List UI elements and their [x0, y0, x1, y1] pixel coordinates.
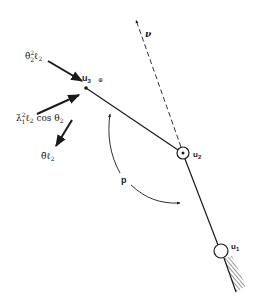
link-u2-u1 — [185, 159, 218, 245]
direction-nu-label: ν — [145, 29, 152, 39]
angle-p-label: p — [121, 175, 127, 185]
label-theta-ddot-l2: θ̈ℓ2 — [41, 151, 55, 162]
force-arrow-theta-ddot — [56, 120, 72, 146]
node-u3-label: u3 — [82, 73, 92, 84]
small-circle-plus-symbol: ⊕ — [98, 76, 103, 83]
link-diagram: ν u3 ⊕ u2 u1 p θ̇22ℓ2 λ̇21ℓ2 cos θ2 θ̈ℓ2 — [0, 0, 259, 305]
label-theta-dot-sq-l2: θ̇22ℓ2 — [25, 49, 42, 63]
node-u2-label: u2 — [193, 150, 202, 160]
ground-hatch — [224, 256, 246, 292]
node-u1-label: u1 — [231, 242, 240, 252]
force-arrow-theta-dot-sq — [48, 61, 82, 81]
angle-arc-p-upper — [109, 114, 120, 173]
direction-nu-line — [136, 20, 181, 147]
force-arrow-lambda-dot-sq — [37, 95, 79, 114]
node-u1-joint — [214, 244, 228, 258]
label-lambda-dot-sq-l2-cos-theta2: λ̇21ℓ2 cos θ2 — [16, 111, 64, 125]
angle-arc-p-lower — [131, 185, 180, 203]
node-u2-dot — [182, 152, 185, 155]
node-u3-dot — [84, 86, 88, 90]
link-u3-u2 — [86, 88, 178, 150]
